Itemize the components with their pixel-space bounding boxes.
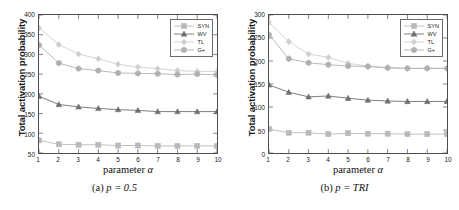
x-tick-label: 6 — [136, 156, 140, 163]
legend-marker-diamond-icon — [173, 38, 195, 46]
series-line-syn — [39, 140, 217, 146]
y-axis-ticks-a: 50100150200250300350400 — [0, 6, 38, 162]
x-axis-label-a: parameter α — [38, 164, 218, 175]
legend-marker-hexagon-icon — [173, 46, 195, 54]
legend-a[interactable]: SYNWVTLG+ — [170, 19, 213, 57]
x-tick-label: 8 — [176, 156, 180, 163]
legend-item-wv[interactable]: WV — [403, 30, 439, 38]
data-point-g+-5 — [346, 63, 351, 69]
plot-area-a: SYNWVTLG+ — [38, 14, 218, 154]
data-point-syn-5 — [116, 143, 121, 148]
data-point-g+-10 — [444, 65, 447, 71]
data-point-syn-4 — [326, 132, 331, 137]
data-point-syn-2 — [286, 130, 291, 135]
legend-label: G+ — [425, 46, 435, 54]
legend-symbol — [412, 47, 417, 53]
y-tick-label: 50 — [28, 151, 35, 158]
x-tick-label: 7 — [156, 156, 160, 163]
data-point-tl-6 — [135, 64, 140, 70]
x-axis-label-b: parameter α — [268, 164, 448, 175]
legend-item-gplus[interactable]: G+ — [173, 46, 209, 54]
y-tick-label: 300 — [24, 51, 35, 58]
panel-b: Total activation probability 05010015020… — [230, 0, 459, 210]
series-line-syn — [269, 129, 447, 134]
data-point-syn-9 — [195, 143, 200, 148]
chart-b: Total activation probability 05010015020… — [230, 6, 459, 178]
y-tick-label: 150 — [254, 81, 265, 88]
x-tick-label: 2 — [286, 156, 290, 163]
x-tick-label: 3 — [76, 156, 80, 163]
data-point-syn-7 — [385, 131, 390, 136]
legend-item-syn[interactable]: SYN — [173, 22, 209, 30]
data-point-g+-9 — [425, 65, 430, 71]
legend-symbol — [412, 23, 417, 28]
data-point-syn-5 — [346, 131, 351, 136]
x-tick-label: 3 — [306, 156, 310, 163]
data-point-tl-4 — [96, 56, 101, 62]
x-tick-label: 4 — [96, 156, 100, 163]
data-point-syn-3 — [76, 142, 81, 147]
data-point-wv-4 — [326, 93, 332, 98]
x-tick-label: 1 — [36, 156, 40, 163]
data-point-tl-3 — [76, 51, 81, 57]
y-tick-label: 200 — [24, 91, 35, 98]
legend-marker-triangle-icon — [173, 30, 195, 38]
y-tick-label: 250 — [254, 34, 265, 41]
data-point-tl-5 — [115, 61, 120, 67]
data-point-tl-4 — [326, 54, 331, 60]
x-tick-label: 5 — [346, 156, 350, 163]
data-point-g+-7 — [155, 71, 160, 77]
x-tick-label: 8 — [406, 156, 410, 163]
x-axis-label-symbol-a: α — [148, 164, 154, 175]
x-tick-label: 10 — [444, 156, 451, 163]
y-tick-label: 50 — [258, 127, 265, 134]
data-point-syn-8 — [405, 132, 410, 137]
legend-label: SYN — [425, 22, 439, 30]
y-tick-label: 350 — [24, 31, 35, 38]
data-point-syn-1 — [269, 127, 272, 132]
caption-body-a: p = 0.5 — [106, 182, 137, 193]
x-tick-label: 10 — [214, 156, 221, 163]
data-point-g+-10 — [214, 72, 217, 78]
data-point-g+-8 — [175, 72, 180, 78]
data-point-syn-9 — [425, 132, 430, 137]
legend-symbol — [182, 23, 187, 28]
legend-item-tl[interactable]: TL — [403, 38, 439, 46]
series-line-wv — [39, 96, 217, 111]
data-point-g+-4 — [326, 62, 331, 68]
x-tick-label: 9 — [426, 156, 430, 163]
data-point-tl-3 — [306, 51, 311, 57]
x-axis-label-text-b: parameter — [333, 164, 378, 175]
x-tick-label: 2 — [56, 156, 60, 163]
data-point-syn-10 — [214, 143, 217, 148]
data-point-g+-9 — [195, 71, 200, 77]
legend-label: WV — [195, 30, 206, 38]
legend-item-syn[interactable]: SYN — [403, 22, 439, 30]
data-point-syn-8 — [175, 143, 180, 148]
legend-item-tl[interactable]: TL — [173, 38, 209, 46]
figure-container: Total activation probability 50100150200… — [0, 0, 459, 210]
y-tick-label: 250 — [24, 71, 35, 78]
data-point-syn-6 — [365, 131, 370, 136]
y-tick-label: 200 — [254, 57, 265, 64]
y-tick-label: 150 — [24, 111, 35, 118]
y-tick-label: 300 — [254, 11, 265, 18]
y-tick-label: 400 — [24, 11, 35, 18]
legend-label: WV — [425, 30, 436, 38]
legend-label: SYN — [195, 22, 209, 30]
legend-label: G+ — [195, 46, 205, 54]
legend-item-wv[interactable]: WV — [173, 30, 209, 38]
legend-b[interactable]: SYNWVTLG+ — [400, 19, 443, 57]
x-tick-label: 5 — [116, 156, 120, 163]
y-tick-label: 0 — [261, 151, 265, 158]
chart-a: Total activation probability 50100150200… — [0, 6, 229, 178]
data-point-syn-2 — [56, 142, 61, 147]
legend-item-gplus[interactable]: G+ — [403, 46, 439, 54]
data-point-syn-6 — [135, 143, 140, 148]
legend-marker-square-icon — [173, 22, 195, 30]
data-point-g+-4 — [96, 68, 101, 74]
data-point-g+-8 — [405, 65, 410, 71]
x-tick-label: 7 — [386, 156, 390, 163]
plot-area-b: SYNWVTLG+ — [268, 14, 448, 154]
x-tick-label: 6 — [366, 156, 370, 163]
